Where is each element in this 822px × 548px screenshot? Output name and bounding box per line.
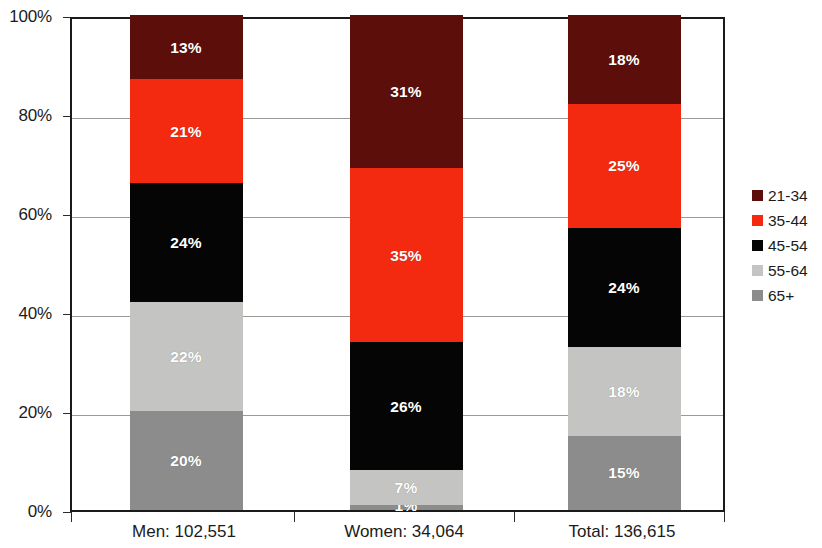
bar-segment-label: 21% (170, 124, 202, 139)
bar-segment-35-44[interactable]: 25% (568, 104, 681, 228)
bar-segment-35-44[interactable]: 21% (130, 79, 243, 183)
bar-segment-21-34[interactable]: 18% (568, 15, 681, 104)
y-axis-tick-label: 80% (19, 107, 52, 124)
legend-item-55-64[interactable]: 55-64 (752, 258, 822, 283)
bar-men[interactable]: 20%22%24%21%13% (130, 15, 243, 510)
bar-segment-55-64[interactable]: 18% (568, 347, 681, 436)
bar-segment-label: 15% (608, 465, 640, 480)
y-axis-tick-label: 60% (19, 206, 52, 223)
legend-item-label: 21-34 (768, 188, 808, 204)
bar-segment-label: 18% (608, 384, 640, 399)
bar-segment-label: 24% (170, 235, 202, 250)
legend-item-35-44[interactable]: 35-44 (752, 208, 822, 233)
y-axis-tick-label: 20% (19, 404, 52, 421)
y-axis-tick-mark (63, 512, 71, 513)
y-axis-tick-label: 40% (19, 305, 52, 322)
bar-segment-label: 24% (608, 280, 640, 295)
x-axis-category-label: Total: 136,615 (512, 522, 732, 542)
x-axis-tick-mark (294, 512, 295, 522)
legend-item-label: 65+ (768, 288, 794, 304)
bar-segment-label: 22% (170, 349, 202, 364)
bar-segment-label: 25% (608, 158, 640, 173)
x-axis-tick-mark (724, 512, 725, 522)
legend-color-swatch (752, 265, 763, 276)
x-axis-tick-mark (514, 512, 515, 522)
bar-segment-35-44[interactable]: 35% (350, 168, 463, 341)
chart-legend: 21-3435-4445-5455-6465+ (752, 183, 822, 308)
bar-segment-21-34[interactable]: 31% (350, 15, 463, 168)
bar-segment-65plus[interactable]: 20% (130, 411, 243, 510)
bar-women[interactable]: 1%7%26%35%31% (350, 15, 463, 510)
y-axis: 0%20%40%60%80%100% (0, 0, 62, 548)
bar-segment-45-54[interactable]: 24% (568, 228, 681, 347)
legend-color-swatch (752, 240, 763, 251)
bar-segment-55-64[interactable]: 22% (130, 302, 243, 411)
bar-segment-label: 26% (390, 399, 422, 414)
bar-segment-label: 35% (390, 248, 422, 263)
legend-item-45-54[interactable]: 45-54 (752, 233, 822, 258)
bar-total[interactable]: 15%18%24%25%18% (568, 15, 681, 510)
bar-segment-45-54[interactable]: 26% (350, 342, 463, 471)
legend-item-label: 55-64 (768, 263, 808, 279)
x-axis-tick-mark (71, 512, 72, 522)
legend-color-swatch (752, 290, 763, 301)
bar-segment-label: 18% (608, 52, 640, 67)
bar-segment-label: 13% (170, 40, 202, 55)
bar-segment-45-54[interactable]: 24% (130, 183, 243, 302)
y-axis-tick-label: 0% (28, 503, 52, 520)
y-axis-tick-label: 100% (9, 8, 52, 25)
legend-color-swatch (752, 190, 763, 201)
legend-item-21-34[interactable]: 21-34 (752, 183, 822, 208)
legend-item-65plus[interactable]: 65+ (752, 283, 822, 308)
x-axis-category-label: Men: 102,551 (74, 522, 294, 542)
bar-segment-55-64[interactable]: 7% (350, 470, 463, 505)
bar-segment-65plus[interactable]: 1% (350, 505, 463, 510)
bar-segment-65plus[interactable]: 15% (568, 436, 681, 510)
bar-segment-label: 20% (170, 453, 202, 468)
stacked-bar-chart: 0%20%40%60%80%100% 20%22%24%21%13%1%7%26… (0, 0, 822, 548)
x-axis-category-label: Women: 34,064 (294, 522, 514, 542)
legend-item-label: 45-54 (768, 238, 808, 254)
bar-segment-label: 31% (390, 84, 422, 99)
bar-segment-label: 7% (395, 480, 418, 495)
bar-segment-21-34[interactable]: 13% (130, 15, 243, 79)
plot-area: 20%22%24%21%13%1%7%26%35%31%15%18%24%25%… (70, 17, 725, 512)
legend-item-label: 35-44 (768, 213, 808, 229)
legend-color-swatch (752, 215, 763, 226)
